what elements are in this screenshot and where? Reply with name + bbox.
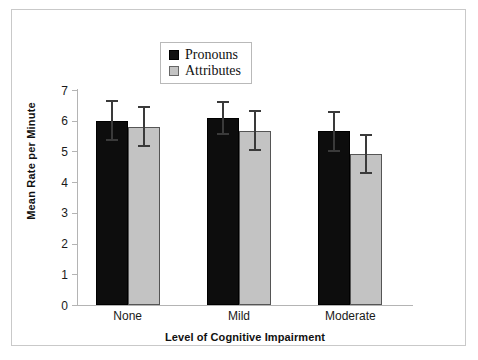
- x-axis-tick-label-moderate: Moderate: [300, 309, 400, 323]
- error-bar-cap-upper: [249, 110, 261, 112]
- legend-item-pronouns: Pronouns: [169, 47, 241, 63]
- error-bar-stem: [111, 100, 113, 141]
- error-bar-cap-upper: [138, 106, 150, 108]
- legend-item-label: Pronouns: [185, 47, 238, 63]
- bar-none-pronouns: [96, 121, 128, 305]
- bar-moderate-pronouns: [318, 131, 350, 305]
- x-axis-tick-label-mild: Mild: [189, 309, 289, 323]
- y-axis-tick-label: 5: [61, 146, 68, 158]
- bar-mild-attributes: [239, 131, 271, 305]
- y-axis-tick-label: 3: [61, 207, 68, 219]
- x-axis-tick-label-none: None: [78, 309, 178, 323]
- error-bar-stem: [365, 134, 367, 174]
- error-bar-cap-lower: [106, 139, 118, 141]
- bar-mild-pronouns: [207, 118, 239, 305]
- y-axis-tick-label: 0: [61, 300, 68, 312]
- error-bar-cap-lower: [217, 133, 229, 135]
- error-bar-cap-upper: [217, 101, 229, 103]
- bar-none-attributes: [128, 127, 160, 305]
- legend-item-attributes: Attributes: [169, 63, 241, 79]
- x-axis-title: Level of Cognitive Impairment: [78, 331, 412, 343]
- error-bar-cap-lower: [249, 149, 261, 151]
- y-axis-tick-label: 2: [61, 238, 68, 250]
- error-bar-stem: [222, 101, 224, 135]
- y-axis-tick-label: 6: [61, 115, 68, 127]
- plot-area: [78, 90, 412, 305]
- error-bar-cap-upper: [328, 111, 340, 113]
- y-axis-tick-label: 4: [61, 177, 68, 189]
- error-bar-cap-upper: [106, 100, 118, 102]
- error-bar-stem: [333, 111, 335, 152]
- error-bar-cap-lower: [138, 145, 150, 147]
- x-axis-line: [77, 305, 413, 306]
- error-bar-stem: [254, 110, 256, 151]
- legend: PronounsAttributes: [160, 42, 252, 84]
- y-axis-tick-label: 1: [61, 269, 68, 281]
- error-bar-stem: [143, 106, 145, 147]
- legend-item-label: Attributes: [185, 63, 241, 79]
- figure-canvas: 01234567 Mean Rate per Minute Level of C…: [0, 0, 478, 360]
- legend-swatch-black: [169, 50, 179, 60]
- legend-swatch-gray: [169, 66, 179, 76]
- y-axis-tick-label: 7: [61, 85, 68, 97]
- y-axis-title: Mean Rate per Minute: [25, 81, 37, 241]
- bar-moderate-attributes: [350, 154, 382, 305]
- error-bar-cap-lower: [328, 150, 340, 152]
- y-axis-tick: 0: [72, 305, 78, 306]
- error-bar-cap-lower: [360, 172, 372, 174]
- error-bar-cap-upper: [360, 134, 372, 136]
